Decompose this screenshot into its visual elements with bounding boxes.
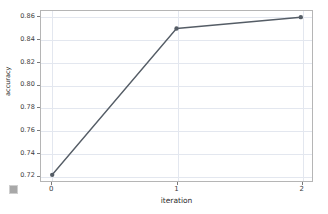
y-tick-mark-2 bbox=[37, 130, 40, 131]
y-tick-mark-6 bbox=[37, 39, 40, 40]
y-tick-label-7: 0.86 bbox=[0, 13, 35, 20]
series-markers bbox=[50, 15, 303, 177]
data-series-line bbox=[41, 11, 312, 181]
series-polyline bbox=[52, 17, 301, 175]
y-tick-label-3: 0.78 bbox=[0, 104, 35, 111]
chart-figure: accuracy 0.720.740.760.780.800.820.840.8… bbox=[0, 0, 328, 214]
y-tick-mark-1 bbox=[37, 153, 40, 154]
y-tick-label-1: 0.74 bbox=[0, 150, 35, 157]
resize-handle-icon[interactable] bbox=[9, 185, 18, 194]
y-tick-label-4: 0.80 bbox=[0, 81, 35, 88]
y-tick-label-2: 0.76 bbox=[0, 127, 35, 134]
y-tick-label-6: 0.84 bbox=[0, 36, 35, 43]
y-tick-mark-3 bbox=[37, 107, 40, 108]
y-tick-mark-7 bbox=[37, 16, 40, 17]
data-point-1 bbox=[174, 26, 178, 30]
y-tick-mark-5 bbox=[37, 62, 40, 63]
y-tick-label-0: 0.72 bbox=[0, 172, 35, 179]
plot-area bbox=[40, 10, 313, 182]
data-point-2 bbox=[299, 15, 303, 19]
y-tick-mark-4 bbox=[37, 85, 40, 86]
y-tick-label-5: 0.82 bbox=[0, 59, 35, 66]
x-tick-label-0: 0 bbox=[41, 186, 61, 193]
x-axis-label: iteration bbox=[40, 197, 313, 205]
x-tick-label-1: 1 bbox=[167, 186, 187, 193]
data-point-0 bbox=[50, 173, 54, 177]
x-tick-label-2: 2 bbox=[292, 186, 312, 193]
y-tick-mark-0 bbox=[37, 176, 40, 177]
